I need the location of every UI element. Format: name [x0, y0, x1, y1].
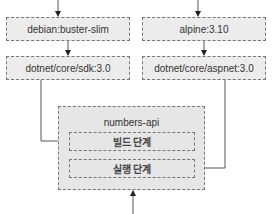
- aspnet-image-box: dotnet/core/aspnet:3.0: [142, 56, 266, 80]
- sdk-image-box: dotnet/core/sdk:3.0: [6, 56, 130, 80]
- alpine-base-image-box: alpine:3.10: [142, 17, 266, 41]
- debian-base-image-box: debian:buster-slim: [6, 17, 130, 41]
- aspnet-image-label: dotnet/core/aspnet:3.0: [154, 63, 254, 74]
- sdk-image-label: dotnet/core/sdk:3.0: [25, 63, 110, 74]
- numbers-api-title: numbers-api: [59, 117, 204, 128]
- build-stage-label: 빌드 단계: [113, 134, 152, 149]
- alpine-base-image-label: alpine:3.10: [180, 24, 229, 35]
- run-stage-box: 실행 단계: [69, 159, 195, 178]
- build-stage-box: 빌드 단계: [69, 132, 195, 151]
- run-stage-label: 실행 단계: [113, 161, 152, 176]
- debian-base-image-label: debian:buster-slim: [27, 24, 109, 35]
